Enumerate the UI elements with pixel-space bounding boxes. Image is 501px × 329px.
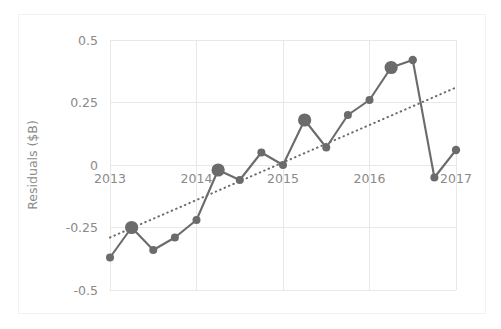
data-point-marker — [149, 246, 157, 254]
x-tick-label: 2017 — [440, 171, 472, 186]
plot-canvas: -0.5-0.2500.250.5 20132014201520162017 R… — [0, 0, 501, 329]
x-tick-label: 2013 — [94, 171, 126, 186]
data-point-marker — [106, 254, 114, 262]
y-axis-title: Residuals ($B) — [25, 120, 40, 210]
data-point-marker — [366, 96, 374, 104]
chart-figure: -0.5-0.2500.250.5 20132014201520162017 R… — [0, 0, 501, 329]
y-tick-labels: -0.5-0.2500.250.5 — [66, 33, 98, 298]
data-point-marker — [298, 113, 311, 126]
data-point-marker — [193, 216, 201, 224]
x-tick-label: 2015 — [267, 171, 299, 186]
data-point-marker — [430, 174, 438, 182]
data-point-marker — [344, 111, 352, 119]
x-tick-label: 2014 — [181, 171, 213, 186]
x-tick-labels: 20132014201520162017 — [94, 171, 472, 186]
x-tick-label: 2016 — [354, 171, 386, 186]
data-point-marker — [322, 144, 330, 152]
data-point-marker — [125, 221, 138, 234]
data-point-marker — [409, 56, 417, 64]
y-tick-label: 0.25 — [70, 95, 98, 110]
data-point-marker — [171, 234, 179, 242]
data-point-marker — [212, 163, 225, 176]
data-point-marker — [279, 161, 287, 169]
y-tick-label: -0.5 — [74, 283, 98, 298]
data-point-marker — [385, 61, 398, 74]
data-point-marker — [257, 149, 265, 157]
y-tick-label: 0.5 — [78, 33, 98, 48]
y-tick-label: -0.25 — [66, 220, 98, 235]
data-point-marker — [452, 146, 460, 154]
data-point-marker — [236, 176, 244, 184]
